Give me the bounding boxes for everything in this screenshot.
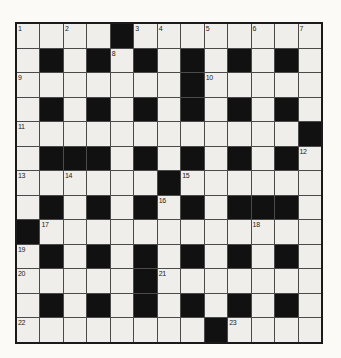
grid-cell[interactable]: 23 bbox=[228, 318, 250, 342]
grid-cell[interactable]: 1 bbox=[17, 24, 39, 48]
grid-cell[interactable] bbox=[252, 147, 274, 171]
grid-cell[interactable]: 11 bbox=[17, 122, 39, 146]
grid-cell[interactable] bbox=[252, 49, 274, 73]
grid-cell[interactable] bbox=[275, 24, 297, 48]
grid-cell[interactable] bbox=[64, 245, 86, 269]
grid-cell[interactable] bbox=[158, 122, 180, 146]
grid-cell[interactable] bbox=[205, 49, 227, 73]
grid-cell[interactable]: 9 bbox=[17, 73, 39, 97]
grid-cell[interactable] bbox=[111, 147, 133, 171]
grid-cell[interactable] bbox=[158, 220, 180, 244]
grid-cell[interactable] bbox=[40, 318, 62, 342]
grid-cell[interactable]: 6 bbox=[252, 24, 274, 48]
grid-cell[interactable] bbox=[275, 220, 297, 244]
grid-cell[interactable] bbox=[252, 294, 274, 318]
grid-cell[interactable] bbox=[205, 147, 227, 171]
grid-cell[interactable]: 19 bbox=[17, 245, 39, 269]
grid-cell[interactable]: 10 bbox=[205, 73, 227, 97]
grid-cell[interactable] bbox=[181, 220, 203, 244]
grid-cell[interactable] bbox=[158, 318, 180, 342]
grid-cell[interactable] bbox=[228, 122, 250, 146]
grid-cell[interactable] bbox=[228, 73, 250, 97]
grid-cell[interactable] bbox=[299, 269, 321, 293]
grid-cell[interactable] bbox=[252, 269, 274, 293]
grid-cell[interactable] bbox=[64, 196, 86, 220]
grid-cell[interactable] bbox=[64, 49, 86, 73]
grid-cell[interactable] bbox=[275, 73, 297, 97]
grid-cell[interactable] bbox=[64, 294, 86, 318]
grid-cell[interactable] bbox=[181, 269, 203, 293]
grid-cell[interactable] bbox=[111, 171, 133, 195]
grid-cell[interactable] bbox=[17, 147, 39, 171]
grid-cell[interactable] bbox=[228, 269, 250, 293]
grid-cell[interactable] bbox=[111, 220, 133, 244]
grid-cell[interactable] bbox=[111, 269, 133, 293]
grid-cell[interactable] bbox=[299, 294, 321, 318]
grid-cell[interactable] bbox=[40, 24, 62, 48]
grid-cell[interactable]: 17 bbox=[40, 220, 62, 244]
grid-cell[interactable] bbox=[134, 220, 156, 244]
grid-cell[interactable] bbox=[228, 24, 250, 48]
grid-cell[interactable] bbox=[181, 318, 203, 342]
grid-cell[interactable] bbox=[275, 269, 297, 293]
grid-cell[interactable]: 16 bbox=[158, 196, 180, 220]
grid-cell[interactable] bbox=[205, 196, 227, 220]
grid-cell[interactable] bbox=[252, 73, 274, 97]
grid-cell[interactable] bbox=[111, 245, 133, 269]
grid-cell[interactable] bbox=[64, 98, 86, 122]
grid-cell[interactable] bbox=[87, 24, 109, 48]
grid-cell[interactable] bbox=[134, 73, 156, 97]
grid-cell[interactable] bbox=[158, 98, 180, 122]
grid-cell[interactable] bbox=[111, 122, 133, 146]
grid-cell[interactable] bbox=[40, 122, 62, 146]
grid-cell[interactable] bbox=[64, 318, 86, 342]
grid-cell[interactable] bbox=[275, 318, 297, 342]
grid-cell[interactable] bbox=[17, 294, 39, 318]
grid-cell[interactable]: 7 bbox=[299, 24, 321, 48]
grid-cell[interactable] bbox=[205, 98, 227, 122]
grid-cell[interactable] bbox=[299, 245, 321, 269]
grid-cell[interactable] bbox=[228, 220, 250, 244]
grid-cell[interactable] bbox=[87, 269, 109, 293]
grid-cell[interactable] bbox=[275, 171, 297, 195]
grid-cell[interactable] bbox=[205, 245, 227, 269]
grid-cell[interactable] bbox=[275, 122, 297, 146]
grid-cell[interactable] bbox=[205, 220, 227, 244]
grid-cell[interactable]: 20 bbox=[17, 269, 39, 293]
grid-cell[interactable] bbox=[64, 269, 86, 293]
grid-cell[interactable] bbox=[158, 294, 180, 318]
grid-cell[interactable] bbox=[228, 171, 250, 195]
grid-cell[interactable] bbox=[252, 171, 274, 195]
grid-cell[interactable]: 18 bbox=[252, 220, 274, 244]
grid-cell[interactable] bbox=[205, 122, 227, 146]
grid-cell[interactable] bbox=[158, 147, 180, 171]
grid-cell[interactable] bbox=[111, 294, 133, 318]
grid-cell[interactable]: 13 bbox=[17, 171, 39, 195]
grid-cell[interactable] bbox=[17, 196, 39, 220]
grid-cell[interactable]: 2 bbox=[64, 24, 86, 48]
grid-cell[interactable] bbox=[134, 122, 156, 146]
grid-cell[interactable] bbox=[299, 196, 321, 220]
grid-cell[interactable] bbox=[299, 318, 321, 342]
grid-cell[interactable] bbox=[40, 269, 62, 293]
grid-cell[interactable] bbox=[252, 318, 274, 342]
grid-cell[interactable]: 15 bbox=[181, 171, 203, 195]
grid-cell[interactable] bbox=[299, 73, 321, 97]
grid-cell[interactable]: 4 bbox=[158, 24, 180, 48]
grid-cell[interactable] bbox=[87, 220, 109, 244]
grid-cell[interactable] bbox=[111, 318, 133, 342]
grid-cell[interactable] bbox=[205, 294, 227, 318]
grid-cell[interactable] bbox=[252, 98, 274, 122]
grid-cell[interactable] bbox=[205, 171, 227, 195]
grid-cell[interactable] bbox=[181, 24, 203, 48]
grid-cell[interactable] bbox=[64, 73, 86, 97]
grid-cell[interactable] bbox=[299, 98, 321, 122]
grid-cell[interactable] bbox=[40, 73, 62, 97]
grid-cell[interactable] bbox=[64, 122, 86, 146]
grid-cell[interactable] bbox=[87, 122, 109, 146]
grid-cell[interactable] bbox=[111, 98, 133, 122]
grid-cell[interactable]: 5 bbox=[205, 24, 227, 48]
grid-cell[interactable] bbox=[111, 73, 133, 97]
grid-cell[interactable] bbox=[87, 318, 109, 342]
grid-cell[interactable] bbox=[134, 318, 156, 342]
